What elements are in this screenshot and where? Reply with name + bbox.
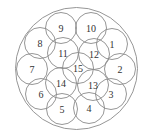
circle-label-9: 9 — [59, 23, 64, 34]
circle-label-11: 11 — [58, 48, 68, 59]
circle-label-10: 10 — [86, 23, 96, 34]
circle-packing-diagram: 123456789101112131415 — [0, 0, 149, 136]
circle-label-7: 7 — [30, 64, 35, 75]
circle-label-8: 8 — [38, 38, 43, 49]
circle-label-4: 4 — [87, 103, 92, 114]
circle-labels: 123456789101112131415 — [30, 23, 123, 115]
circle-label-14: 14 — [56, 78, 66, 89]
circle-label-3: 3 — [109, 89, 114, 100]
circle-label-2: 2 — [118, 64, 123, 75]
circle-label-15: 15 — [73, 63, 83, 74]
circle-label-6: 6 — [39, 89, 44, 100]
circle-label-5: 5 — [60, 104, 65, 115]
circle-label-1: 1 — [110, 39, 115, 50]
circle-label-13: 13 — [88, 80, 98, 91]
circle-label-12: 12 — [89, 49, 99, 60]
